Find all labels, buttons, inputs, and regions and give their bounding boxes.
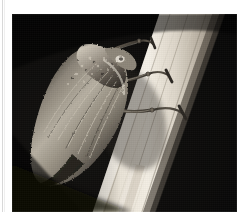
caption-text: BUFFALO TREEHOPPER ON A LEAF STALK	[8, 0, 218, 2]
scanned-page: BUFFALO TREEHOPPER ON A LEAF STALK	[0, 0, 244, 223]
page-gutter-rule-secondary	[4, 0, 5, 223]
page-gutter-rule	[2, 0, 3, 223]
page-bottom-margin	[0, 212, 244, 223]
caption-top-cutoff: BUFFALO TREEHOPPER ON A LEAF STALK	[8, 0, 218, 4]
photo-plate	[12, 14, 237, 212]
insect-photo-illustration	[12, 14, 237, 212]
